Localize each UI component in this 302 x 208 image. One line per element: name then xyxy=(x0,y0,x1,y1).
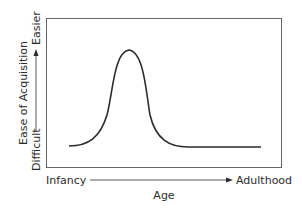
y-axis-start-label: Difficult xyxy=(30,128,43,171)
y-axis-end-label: Easier xyxy=(30,11,43,45)
x-axis-arrowhead-icon xyxy=(226,178,233,183)
critical-period-chart: Ease of Acquisition Difficult Easier Inf… xyxy=(0,0,302,208)
y-axis-arrowhead-icon xyxy=(34,49,39,56)
y-axis-title: Ease of Acquisition xyxy=(17,41,30,145)
x-axis-title: Age xyxy=(153,189,175,202)
x-axis-end-label: Adulthood xyxy=(236,174,292,187)
ease-of-acquisition-curve xyxy=(69,50,261,147)
x-axis-start-label: Infancy xyxy=(46,174,87,187)
